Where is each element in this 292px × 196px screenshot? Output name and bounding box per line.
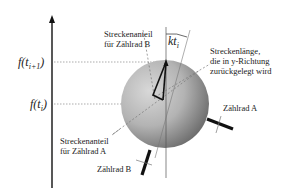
y-axis: [49, 15, 55, 188]
label-streckenanteil-b: Streckenanteil für Zählrad B: [104, 29, 153, 49]
axis-arrow-icon: [49, 15, 55, 23]
label-streckenanteil-a: Streckenanteil für Zählrad A: [60, 136, 109, 156]
diagram: f(ti+1) f(ti) kti Streckenanteil für Zäh…: [0, 0, 292, 196]
label-zaehlrad-b: Zählrad B: [97, 164, 131, 174]
label-streckenlaenge: Streckenlänge, die in y-Richtung zurückg…: [210, 46, 272, 76]
label-zaehlrad-a: Zählrad A: [223, 103, 257, 113]
tick-label-f-ti: f(ti): [30, 97, 47, 113]
angle-label: kti: [168, 34, 179, 50]
tick-label-f-ti1: f(ti+1): [18, 55, 44, 71]
